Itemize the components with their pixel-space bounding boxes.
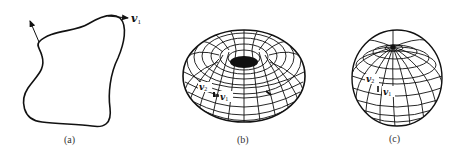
caption-a: (a)	[64, 134, 75, 145]
panel-c-sphere: v2 v1	[351, 30, 442, 127]
label-v1-panel-a: v1	[131, 12, 141, 26]
sphere-pole	[391, 45, 396, 50]
caption-c: (c)	[389, 133, 400, 144]
closed-curve	[24, 16, 125, 127]
normal-vector-arrow-icon	[30, 21, 39, 42]
panel-b-torus: v2 v1	[183, 26, 305, 122]
caption-b: (b)	[237, 134, 249, 145]
panel-a-closed-curve: v1	[24, 12, 142, 126]
